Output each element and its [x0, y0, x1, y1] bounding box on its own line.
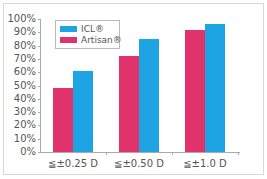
- x-tick-mark: [238, 152, 239, 155]
- y-tick-label: 80%: [0, 41, 36, 51]
- y-tick-label: 70%: [0, 54, 36, 64]
- y-tick-mark: [38, 46, 41, 47]
- legend-swatch-icl: [60, 26, 77, 32]
- x-tick-label: ≦±0.25 D: [40, 158, 106, 169]
- y-tick-mark: [38, 32, 41, 33]
- y-tick-mark: [38, 59, 41, 60]
- bar-artisan: [119, 56, 139, 152]
- legend: ICL® Artisan®: [55, 20, 120, 49]
- y-tick-mark: [38, 139, 41, 140]
- bar-icl: [73, 71, 93, 152]
- y-tick-label: 40%: [0, 94, 36, 104]
- legend-item-artisan: Artisan®: [60, 35, 122, 45]
- bar-artisan: [185, 30, 205, 152]
- legend-label-icl: ICL®: [81, 24, 104, 34]
- y-tick-mark: [38, 72, 41, 73]
- bar-icl: [205, 24, 225, 152]
- y-tick-label: 10%: [0, 134, 36, 144]
- x-tick-label: ≦±0.50 D: [106, 158, 172, 169]
- y-tick-label: 90%: [0, 27, 36, 37]
- y-tick-mark: [38, 86, 41, 87]
- legend-label-artisan: Artisan®: [81, 35, 122, 45]
- legend-item-icl: ICL®: [60, 24, 104, 34]
- y-tick-mark: [38, 19, 41, 20]
- y-tick-mark: [38, 152, 41, 153]
- y-tick-label: 50%: [0, 81, 36, 91]
- bar-artisan: [53, 88, 73, 152]
- x-tick-mark: [172, 152, 173, 155]
- y-tick-mark: [38, 112, 41, 113]
- x-tick-mark: [106, 152, 107, 155]
- bar-icl: [139, 39, 159, 152]
- x-tick-label: ≦±1.0 D: [172, 158, 238, 169]
- y-tick-label: 30%: [0, 107, 36, 117]
- y-tick-mark: [38, 125, 41, 126]
- legend-swatch-artisan: [60, 37, 77, 43]
- x-axis: [40, 152, 240, 153]
- y-tick-label: 60%: [0, 67, 36, 77]
- y-tick-mark: [38, 99, 41, 100]
- y-tick-label: 0%: [0, 147, 36, 157]
- y-tick-label: 20%: [0, 120, 36, 130]
- y-tick-label: 100%: [0, 14, 36, 24]
